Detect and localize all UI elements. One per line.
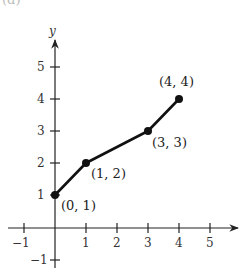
x-tick-label: 1 — [82, 237, 90, 249]
y-tick-label: 4 — [37, 93, 45, 105]
y-tick-label: 3 — [37, 125, 45, 137]
x-tick-label: 4 — [175, 237, 183, 249]
y-tick-label: 1 — [37, 189, 45, 201]
x-tick-label: 2 — [113, 237, 121, 249]
y-tick-label: 2 — [37, 157, 45, 169]
point-label: (1, 2) — [91, 167, 126, 180]
data-point — [51, 191, 59, 199]
data-point — [144, 127, 152, 135]
panel-label: (d) — [2, 0, 20, 7]
x-tick-label: 3 — [144, 237, 152, 249]
y-tick-label: 5 — [37, 61, 45, 73]
point-label: (0, 1) — [61, 199, 96, 212]
data-point — [82, 159, 90, 167]
x-tick-label: 5 — [206, 237, 214, 249]
data-point — [175, 95, 183, 103]
point-label: (4, 4) — [159, 75, 194, 88]
y-axis-label: y — [49, 25, 56, 37]
point-label: (3, 3) — [152, 136, 187, 149]
x-tick-label: −1 — [12, 237, 30, 249]
y-tick-label: −1 — [30, 254, 48, 266]
